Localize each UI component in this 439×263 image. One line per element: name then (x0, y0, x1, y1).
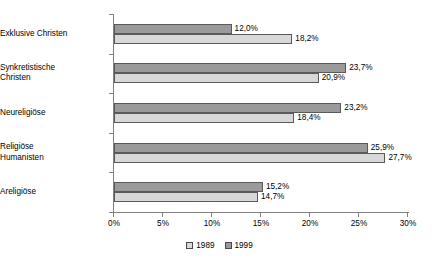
x-axis-tick (358, 213, 359, 217)
x-axis-tick (407, 213, 408, 217)
category-axis: Exklusive ChristenSynkretistische Christ… (0, 14, 106, 212)
bar-1999-2 (114, 103, 341, 113)
bar-chart: Exklusive ChristenSynkretistische Christ… (0, 0, 439, 263)
bar-value-label: 23,7% (349, 63, 372, 73)
bar-1989-3 (114, 153, 385, 163)
y-axis-tick (109, 212, 114, 213)
category-label: Areligiöse (0, 187, 104, 198)
category-label: Synkretistische Christen (0, 63, 104, 84)
bar-1989-0 (114, 34, 292, 44)
x-axis-tick (211, 213, 212, 217)
legend-swatch-icon (225, 242, 232, 249)
category-label: Exklusive Christen (0, 29, 104, 40)
x-axis-tick-label: 5% (143, 219, 183, 229)
x-axis-tick-label: 30% (388, 219, 428, 229)
x-axis-tick (260, 213, 261, 217)
x-axis-tick (113, 213, 114, 217)
bar-1989-1 (114, 73, 319, 83)
bar-1989-4 (114, 192, 258, 202)
bar-value-label: 14,7% (261, 192, 284, 202)
x-axis-tick-label: 15% (241, 219, 281, 229)
bar-value-label: 18,2% (295, 34, 318, 44)
category-label: Religiöse Humanisten (0, 142, 104, 163)
plot-area: 0%5%10%15%20%25%30%12,0%18,2%23,7%20,9%2… (114, 14, 408, 212)
bar-value-label: 12,0% (235, 24, 258, 34)
x-axis-line (113, 212, 409, 213)
legend-swatch-icon (186, 242, 193, 249)
x-axis-tick-label: 10% (192, 219, 232, 229)
bar-1999-3 (114, 143, 368, 153)
x-axis-tick-label: 20% (290, 219, 330, 229)
bar-1999-4 (114, 182, 263, 192)
bar-value-label: 15,2% (266, 182, 289, 192)
x-axis-tick (309, 213, 310, 217)
y-axis-tick (109, 93, 114, 94)
bar-1999-0 (114, 24, 232, 34)
legend-item-1989[interactable]: 1989 (186, 240, 214, 251)
chart-legend: 19891999 (0, 240, 439, 251)
bar-value-label: 25,9% (371, 143, 394, 153)
y-axis-tick (109, 14, 114, 15)
x-axis-tick (162, 213, 163, 217)
y-axis-tick (109, 54, 114, 55)
bar-1999-1 (114, 63, 346, 73)
y-axis-tick (109, 133, 114, 134)
bar-value-label: 20,9% (322, 73, 345, 83)
y-axis-tick (109, 172, 114, 173)
x-axis-tick-label: 0% (94, 219, 134, 229)
legend-item-1999[interactable]: 1999 (225, 240, 253, 251)
bar-value-label: 18,4% (297, 113, 320, 123)
category-label: Neureligiöse (0, 108, 104, 119)
bar-value-label: 27,7% (388, 153, 411, 163)
bar-1989-2 (114, 113, 294, 123)
bar-value-label: 23,2% (344, 103, 367, 113)
legend-label: 1989 (196, 240, 214, 251)
legend-label: 1999 (235, 240, 253, 251)
x-axis-tick-label: 25% (339, 219, 379, 229)
